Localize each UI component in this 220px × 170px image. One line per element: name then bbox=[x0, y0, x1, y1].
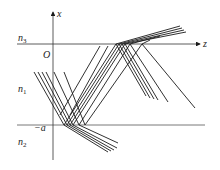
ray-diagram-svg bbox=[0, 0, 220, 170]
x-axis-label: x bbox=[57, 9, 61, 19]
region-label-n3: n3 bbox=[18, 33, 27, 45]
waveguide-ray-diagram: x z O −a n3 n1 n2 bbox=[0, 0, 220, 170]
rays bbox=[34, 26, 195, 152]
z-axis-label: z bbox=[203, 39, 207, 49]
region-label-n2: n2 bbox=[18, 137, 27, 149]
minus-a-label: −a bbox=[34, 123, 46, 133]
origin-label: O bbox=[43, 50, 50, 60]
region-label-n1: n1 bbox=[18, 84, 27, 96]
